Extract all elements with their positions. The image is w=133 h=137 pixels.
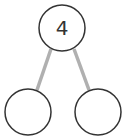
- part-circle-left[interactable]: [5, 89, 51, 135]
- part-circle-right[interactable]: [75, 89, 121, 135]
- number-bond-diagram: 4: [0, 0, 133, 137]
- whole-value: 4: [56, 16, 69, 40]
- connector-right: [74, 49, 89, 90]
- connector-left: [37, 49, 51, 90]
